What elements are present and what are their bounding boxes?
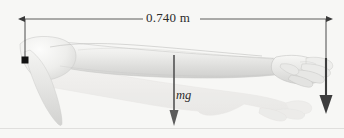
dimension-label-arm-length: 0.740 m: [143, 11, 193, 24]
weight-vector-label-mg: mg: [176, 89, 191, 102]
hand-illustration: [271, 55, 332, 87]
physics-figure-arm-torque: 0.740 m mg: [0, 0, 344, 138]
pivot-point-marker: [22, 57, 29, 64]
